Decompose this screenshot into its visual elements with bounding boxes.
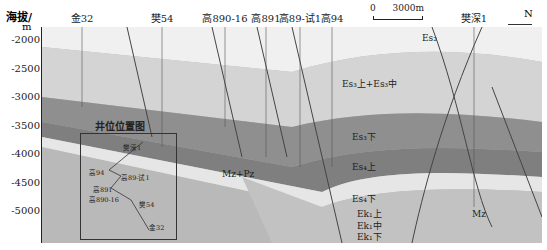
well-label: 金32: [71, 10, 94, 25]
label-es4-upper: Es₄上: [352, 162, 376, 172]
well-label: 高891: [251, 10, 280, 25]
inset-well-label: 高89-试1: [121, 172, 150, 182]
inset-well-label: 高94: [89, 167, 104, 177]
inset-well-label: 高890-16: [89, 194, 119, 204]
inset-well-label: 高891: [93, 184, 112, 194]
well-label: 高890-16: [202, 10, 247, 25]
well-label: 高89-试1: [279, 10, 321, 25]
y-tick-label: -2000: [2, 35, 40, 45]
inset-title: 井位位置图: [95, 118, 145, 133]
y-axis-line: [41, 27, 42, 243]
y-tick-label: -4500: [2, 178, 40, 188]
inset-well-label: 樊深1: [123, 142, 141, 152]
well-label: 高94: [321, 10, 344, 25]
scale-length: 3000m: [393, 3, 424, 13]
label-es4-lower: Es₄下: [352, 194, 376, 204]
inset-well-label: 金32: [149, 222, 164, 232]
north-arrow-icon: [508, 24, 532, 25]
y-tick-label: -5000: [2, 206, 40, 216]
scale-zero: 0: [370, 3, 376, 13]
well-label: 樊54: [151, 10, 174, 25]
scale-bar: 0 3000m: [370, 3, 424, 13]
north-label: N: [524, 8, 533, 19]
well-label: 樊深1: [461, 10, 487, 25]
y-axis-unit: m: [22, 21, 31, 32]
y-tick-label: -2500: [2, 64, 40, 74]
label-es2: Es₂: [422, 33, 437, 43]
well-location-map: 樊深1高94高89-试1高891高890-16樊54金32: [80, 133, 177, 240]
label-mz-pz: Mz+Pz: [222, 169, 255, 179]
y-tick-label: -3000: [2, 92, 40, 102]
label-ek1-mid: Ek₁中: [357, 220, 382, 231]
label-mz: Mz: [472, 209, 486, 219]
y-tick-label: -3500: [2, 121, 40, 131]
label-ek1-upper: Ek₁上: [357, 209, 382, 219]
label-es3-upper-mid: Es₃上+Es₃中: [342, 78, 397, 89]
label-ek1-lower: Ek₁下: [357, 232, 382, 242]
label-es3-lower: Es₃下: [352, 132, 376, 142]
y-tick-label: -4000: [2, 149, 40, 159]
inset-well-label: 樊54: [139, 199, 154, 209]
